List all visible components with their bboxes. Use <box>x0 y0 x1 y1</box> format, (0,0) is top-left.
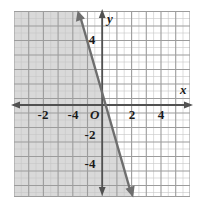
y-axis-label: y <box>107 11 113 27</box>
x-tick-label-pos2: 2 <box>126 107 138 123</box>
graph-figure: x y O -4 -2 2 4 4 -2 -4 <box>0 0 204 208</box>
x-tick-label-neg4: -4 <box>65 107 81 123</box>
x-axis-label: x <box>180 82 187 98</box>
x-tick-label-pos4: 4 <box>155 107 167 123</box>
origin-label: O <box>90 107 99 123</box>
y-tick-label-pos4: 4 <box>86 32 98 48</box>
y-tick-label-neg2: -2 <box>82 127 98 143</box>
y-tick-label-neg4: -4 <box>82 156 98 172</box>
x-tick-label-neg2: -2 <box>35 107 51 123</box>
coordinate-plane <box>0 0 204 208</box>
